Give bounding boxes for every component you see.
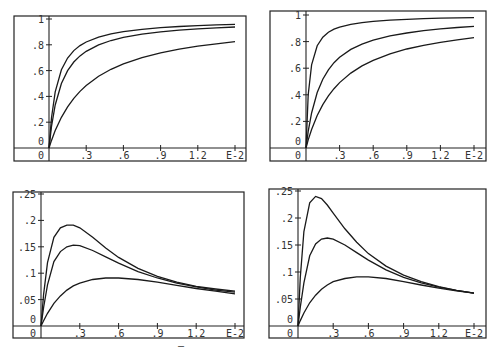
- y-tick-label: .2: [32, 117, 44, 128]
- x-tick-label: .3: [327, 328, 339, 339]
- y-tick-label: .05: [275, 294, 293, 305]
- x-tick-label: .9: [151, 328, 163, 339]
- y-tick-label: .25: [275, 186, 293, 197]
- x-tick-label: 1.2: [187, 328, 205, 339]
- data-curve: [298, 277, 474, 326]
- data-curve: [298, 196, 474, 326]
- y-tick-label: .8: [289, 37, 301, 48]
- y-tick-label: .4: [32, 91, 44, 102]
- chart-bottom-left: 0.05.1.15.2.250.3.6.91.2E-2: [13, 189, 244, 339]
- data-curve: [306, 18, 474, 148]
- y-tick-label: .6: [289, 63, 301, 74]
- x-tick-label: .6: [362, 328, 374, 339]
- data-curve: [41, 278, 235, 326]
- stray-mark: –: [178, 340, 185, 350]
- y-tick-label: .4: [289, 90, 301, 101]
- x-tick-label: .6: [113, 328, 125, 339]
- x-tick-label: .6: [117, 150, 129, 161]
- x-tick-label: .3: [80, 150, 92, 161]
- data-curve: [306, 26, 474, 148]
- x-tick-label: .3: [74, 328, 86, 339]
- y-tick-label: .05: [18, 295, 36, 306]
- x-tick-label: 0: [287, 328, 293, 339]
- x-tick-label: .3: [334, 150, 346, 161]
- y-tick-label: 0: [295, 136, 301, 147]
- y-tick-label: .1: [281, 267, 293, 278]
- x-tick-label: 0: [30, 328, 36, 339]
- y-tick-label: 0: [30, 314, 36, 325]
- data-curve: [49, 42, 235, 148]
- x-tick-label: .9: [401, 150, 413, 161]
- x-tick-label: E-2: [226, 328, 244, 339]
- data-curve: [41, 245, 235, 326]
- data-curve: [306, 38, 474, 148]
- y-tick-label: 1: [295, 10, 301, 21]
- x-tick-label: 0: [38, 150, 44, 161]
- chart-grid: 0.2.4.6.810.3.6.91.2E-2 0.2.4.6.810.3.6.…: [0, 0, 500, 350]
- y-tick-label: 0: [38, 136, 44, 147]
- y-tick-label: .15: [18, 242, 36, 253]
- chart-bottom-right: 0.05.1.15.2.250.3.6.91.2E-2: [269, 186, 486, 339]
- y-tick-label: .2: [281, 213, 293, 224]
- y-tick-label: .6: [32, 66, 44, 77]
- y-tick-label: .15: [275, 240, 293, 251]
- data-curve: [49, 24, 235, 148]
- y-tick-label: .1: [24, 268, 36, 279]
- y-tick-label: 0: [287, 314, 293, 325]
- x-tick-label: 0: [295, 150, 301, 161]
- x-tick-label: 1.2: [431, 150, 449, 161]
- y-tick-label: .25: [18, 189, 36, 200]
- x-tick-label: E-2: [465, 150, 483, 161]
- data-curve: [298, 238, 474, 326]
- x-tick-label: E-2: [465, 328, 483, 339]
- y-tick-label: .2: [24, 215, 36, 226]
- x-tick-label: 1.2: [430, 328, 448, 339]
- x-tick-label: 1.2: [189, 150, 207, 161]
- plot-frame: [270, 11, 486, 161]
- chart-top-right: 0.2.4.6.810.3.6.91.2E-2: [270, 10, 486, 161]
- x-tick-label: E-2: [226, 150, 244, 161]
- data-curve: [41, 225, 235, 326]
- x-tick-label: .9: [398, 328, 410, 339]
- y-tick-label: .8: [32, 40, 44, 51]
- y-tick-label: .2: [289, 116, 301, 127]
- x-tick-label: .6: [367, 150, 379, 161]
- y-tick-label: 1: [38, 14, 44, 25]
- x-tick-label: .9: [155, 150, 167, 161]
- chart-top-left: 0.2.4.6.810.3.6.91.2E-2: [14, 14, 246, 161]
